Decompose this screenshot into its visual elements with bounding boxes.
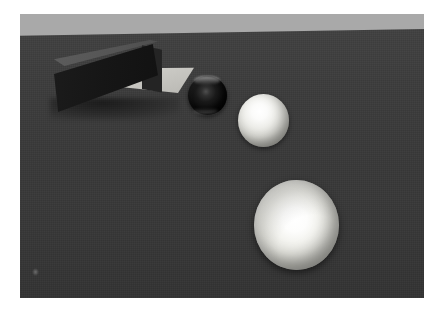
white-sphere-medium — [238, 94, 289, 147]
corner-speck-artifact — [32, 268, 39, 276]
render-viewport — [20, 14, 424, 298]
image-canvas — [0, 0, 442, 314]
black-glossy-sphere — [188, 76, 227, 115]
white-sphere-large — [254, 180, 339, 270]
